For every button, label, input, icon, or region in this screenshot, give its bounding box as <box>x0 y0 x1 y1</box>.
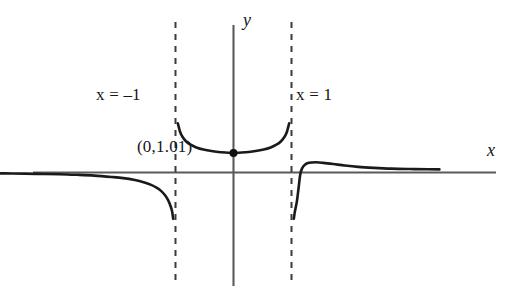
graph-canvas <box>0 0 530 303</box>
graph-figure: y x x = –1 x = 1 (0,1.01) <box>0 0 530 303</box>
vertex-point-marker <box>230 149 238 157</box>
curve-left-branch <box>0 173 173 219</box>
asymptote-label-right: x = 1 <box>296 85 332 105</box>
asymptote-label-left: x = –1 <box>96 85 141 105</box>
vertex-point-label: (0,1.01) <box>137 137 192 157</box>
x-axis-label: x <box>487 140 495 161</box>
y-axis-label: y <box>243 10 251 31</box>
curve-right-branch <box>294 162 440 219</box>
